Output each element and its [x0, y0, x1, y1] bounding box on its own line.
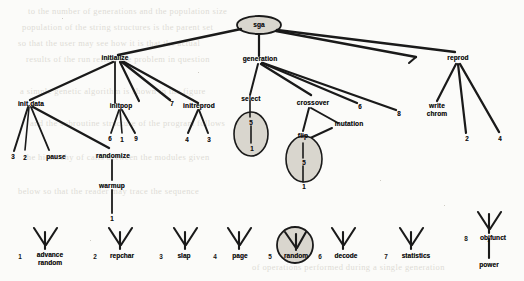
legend-item-decode[interactable]: decode [334, 252, 357, 260]
legend-item-random[interactable]: random [284, 252, 308, 260]
node-reprod[interactable]: reprod [447, 54, 468, 62]
ref-number-1-initpop[interactable]: 1 [120, 136, 124, 143]
ref-number-1-warmup[interactable]: 1 [110, 215, 114, 222]
legend-item-repchar[interactable]: repchar [110, 252, 134, 260]
node-warmup[interactable]: warmup [99, 182, 125, 190]
legend-index-3: 3 [159, 253, 163, 260]
legend-item-page[interactable]: page [232, 252, 247, 260]
legend-item-advance-random[interactable]: advancerandom [37, 251, 63, 267]
ref-number-3-initdata[interactable]: 3 [11, 153, 15, 160]
node-mutation[interactable]: mutation [335, 120, 364, 128]
node-write-chrom-label: writechrom [427, 102, 448, 117]
legend-item-statistics[interactable]: statistics [402, 252, 431, 260]
ref-number-1-flip[interactable]: 1 [302, 183, 306, 190]
node-initpop[interactable]: initpop [110, 102, 133, 110]
ref-number-6-generation[interactable]: 6 [358, 103, 362, 110]
ref-number-2-initdata[interactable]: 2 [23, 154, 27, 161]
node-select[interactable]: select [241, 95, 260, 103]
node-sga[interactable]: sga [253, 21, 265, 29]
node-init-data[interactable]: init.data [18, 100, 44, 108]
ref-number-5-flip[interactable]: 5 [302, 159, 306, 166]
legend-index-8: 8 [464, 235, 468, 242]
node-write-chrom[interactable]: writechrom [427, 102, 448, 117]
ref-number-4-initreprod[interactable]: 4 [185, 136, 189, 143]
node-flip[interactable]: flip [298, 132, 308, 140]
legend-index-4: 4 [213, 253, 217, 260]
ref-number-3-initreprod[interactable]: 3 [207, 136, 211, 143]
ref-number-6-initpop[interactable]: 6 [108, 135, 112, 142]
ref-number-1-select[interactable]: 1 [250, 145, 254, 152]
node-crossover[interactable]: crossover [297, 99, 329, 107]
ref-number-4-reprod[interactable]: 4 [498, 135, 502, 142]
ref-number-9-initpop[interactable]: 9 [134, 135, 138, 142]
ref-number-7-initialize[interactable]: 7 [170, 100, 174, 107]
diagram-canvas: to the number of generations and the pop… [0, 0, 524, 281]
ref-number-2-reprod[interactable]: 2 [465, 135, 469, 142]
node-initialize[interactable]: initialize [101, 54, 128, 62]
node-initreprod[interactable]: initreprod [183, 102, 215, 110]
legend-index-5: 5 [268, 253, 272, 260]
tree-edges [0, 0, 524, 281]
legend-index-1: 1 [18, 253, 22, 260]
ref-number-5-select[interactable]: 5 [249, 119, 253, 126]
legend-item-power[interactable]: power [479, 261, 498, 269]
legend-index-6: 6 [318, 253, 322, 260]
legend-item-slap[interactable]: slap [177, 252, 190, 260]
legend-item-objfunct[interactable]: objfunct [480, 234, 506, 242]
ref-number-8-generation[interactable]: 8 [397, 110, 401, 117]
legend-index-2: 2 [93, 253, 97, 260]
legend-index-7: 7 [384, 253, 388, 260]
node-pause[interactable]: pause [46, 153, 66, 161]
node-randomize[interactable]: randomize [96, 152, 130, 160]
node-generation[interactable]: generation [243, 55, 278, 63]
